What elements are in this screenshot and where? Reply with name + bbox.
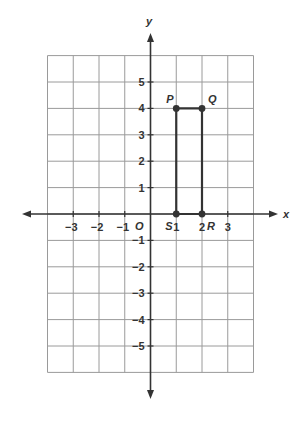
point-q-dot: [199, 105, 206, 112]
x-tick-label: 3: [225, 221, 231, 233]
vertex-points: PQRS: [165, 93, 217, 232]
point-p-label: P: [166, 93, 174, 105]
x-axis-label: x: [282, 208, 290, 220]
y-tick-label: 4: [138, 102, 145, 114]
y-tick-label: 2: [138, 155, 144, 167]
point-r-label: R: [207, 220, 215, 232]
coordinate-plane-svg: xyO −3−2−112354321−1−2−3−4−5 PQRS: [0, 0, 307, 421]
y-tick-label: 5: [138, 76, 144, 88]
y-axis-label: y: [145, 15, 153, 27]
y-tick-label: 3: [138, 129, 144, 141]
x-tick-label: −3: [65, 221, 78, 233]
x-tick-label: 1: [173, 221, 179, 233]
x-tick-label: −2: [91, 221, 104, 233]
x-axis-right-arrow-icon: [269, 211, 278, 218]
origin-label: O: [135, 220, 144, 232]
y-tick-label: 1: [138, 182, 144, 194]
point-s-dot: [173, 211, 180, 218]
point-r-dot: [199, 211, 206, 218]
axes: xyO: [22, 15, 290, 399]
y-axis-down-arrow-icon: [147, 390, 154, 399]
point-q-label: Q: [208, 93, 217, 105]
x-axis-left-arrow-icon: [22, 211, 31, 218]
y-tick-label: −4: [132, 314, 145, 326]
point-p-dot: [173, 105, 180, 112]
x-tick-label: 2: [199, 221, 205, 233]
y-tick-label: −1: [132, 234, 145, 246]
y-tick-label: −2: [132, 261, 145, 273]
coordinate-plane: xyO −3−2−112354321−1−2−3−4−5 PQRS: [0, 0, 307, 421]
x-tick-label: −1: [116, 221, 129, 233]
y-tick-label: −3: [132, 287, 145, 299]
y-tick-label: −5: [132, 340, 145, 352]
y-axis-up-arrow-icon: [147, 33, 154, 42]
point-s-label: S: [165, 220, 173, 232]
